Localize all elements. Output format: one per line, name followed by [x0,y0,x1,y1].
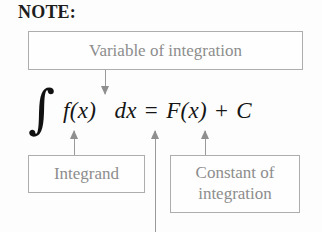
formula-differential: dx [114,98,136,123]
callout-label-variable-of-integration: Variable of integration [29,41,302,60]
formula-antiderivative: F(x) [166,98,207,123]
formula-plus: + [213,98,230,123]
arrow-shaft [155,131,156,232]
arrow-head [70,130,78,139]
callout-box-integrand: Integrand [28,155,145,193]
formula-constant: C [236,98,252,123]
formula-equals: = [143,98,160,123]
arrow-head [151,130,159,139]
formula-integrand: f(x) [63,98,96,123]
formula-expression: f(x) dx = F(x) + C [57,98,252,124]
callout-box-constant-of-integration: Constant of integration [170,155,300,213]
integral-formula: ∫ f(x) dx = F(x) + C [28,88,252,134]
integral-sign-icon: ∫ [28,83,57,135]
callout-box-variable-of-integration: Variable of integration [28,31,303,70]
note-heading: NOTE: [18,2,76,23]
arrow-head [201,130,209,139]
note-figure: NOTE: Variable of integration ∫ f(x) dx … [0,0,322,232]
callout-label-integrand: Integrand [29,164,144,183]
callout-label-constant-of-integration: Constant of integration [171,163,299,204]
callout-label-constant-line2: integration [198,184,272,203]
callout-label-constant-line1: Constant of [196,163,275,182]
